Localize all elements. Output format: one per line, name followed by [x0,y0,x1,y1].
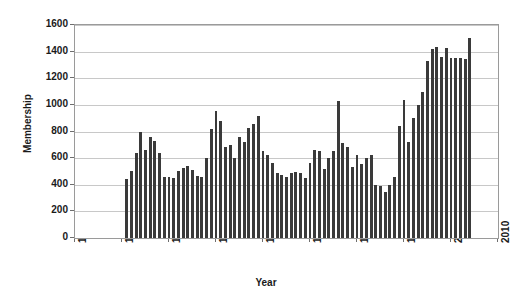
bar [388,185,391,238]
bar [393,177,396,238]
bar [266,155,269,238]
bar [210,129,213,238]
bar [365,158,368,238]
x-axis-tick-label: 2010 [501,221,511,243]
bar [454,58,457,238]
bar [163,177,166,238]
y-axis-tick-label: 200 [22,205,68,215]
bar [337,101,340,238]
bar [341,143,344,238]
bar [290,173,293,238]
bar [384,192,387,238]
bar [356,155,359,238]
gridline [75,25,498,26]
y-axis-tick-label: 600 [22,152,68,162]
bar [125,179,128,238]
bar [403,100,406,238]
bar [313,150,316,238]
bar [299,173,302,238]
bar [238,137,241,238]
bar [417,105,420,238]
bar [332,151,335,238]
bar [247,128,250,238]
bar [177,171,180,238]
bar [224,147,227,238]
bar [450,58,453,238]
bar [309,163,312,238]
bar [440,57,443,238]
plot-area [74,24,499,239]
bar [421,92,424,238]
bar [304,178,307,238]
bar [468,38,471,238]
bar [327,158,330,238]
bar [407,142,410,238]
bar [374,185,377,238]
bar [318,151,321,238]
y-axis-tick-label: 1400 [22,46,68,56]
bar [426,61,429,238]
bar [168,177,171,238]
bar [229,145,232,238]
bar [139,132,142,238]
bar [412,118,415,238]
bar [215,111,218,238]
bar [276,173,279,238]
y-axis-tick-label: 0 [22,232,68,242]
bar [370,155,373,238]
y-axis-tick-label: 800 [22,126,68,136]
bar [435,47,438,238]
y-axis-tick-label: 400 [22,179,68,189]
bar [153,141,156,238]
bar [200,177,203,238]
bar [445,48,448,238]
bar [323,169,326,238]
bar [252,124,255,238]
bar [360,164,363,238]
bar [149,137,152,238]
bar [158,153,161,238]
bar [294,172,297,238]
bar [280,175,283,238]
bar [182,168,185,238]
bar [135,153,138,238]
bar [144,150,147,238]
bar [196,176,199,238]
y-axis-tick-label: 1600 [22,19,68,29]
bar [431,49,434,238]
bar [262,151,265,238]
bar [243,142,246,238]
bar [219,121,222,238]
bar [233,158,236,238]
bar [459,58,462,238]
bar [205,158,208,238]
bar [271,163,274,238]
membership-bar-chart: Membership Year 160014001200100080060040… [0,0,532,300]
bar [257,116,260,238]
bar [186,166,189,238]
bar [285,177,288,238]
x-axis-title: Year [0,277,532,288]
bar [398,126,401,238]
bar [130,171,133,238]
y-axis-tick-label: 1200 [22,72,68,82]
bar [172,178,175,238]
bar [379,186,382,238]
bar [191,170,194,238]
y-axis-tick-label: 1000 [22,99,68,109]
bar [346,147,349,238]
bar [351,167,354,238]
bar [464,59,467,238]
